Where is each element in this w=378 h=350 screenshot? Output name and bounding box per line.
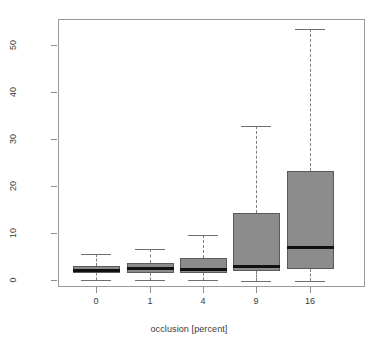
y-tick-label: 10	[8, 220, 18, 246]
y-tick-mark	[51, 139, 57, 140]
upper-whisker	[203, 235, 204, 258]
lower-whisker-cap	[241, 281, 270, 282]
upper-whisker	[256, 126, 257, 212]
x-tick-mark	[256, 287, 257, 293]
median-line	[127, 267, 174, 270]
lower-whisker	[150, 273, 151, 280]
x-tick-mark	[96, 287, 97, 293]
x-tick-mark	[150, 287, 151, 293]
x-tick-label: 0	[81, 296, 111, 306]
median-line	[73, 269, 120, 272]
y-tick-mark	[51, 186, 57, 187]
x-tick-mark	[310, 287, 311, 293]
lower-whisker-cap	[188, 280, 217, 281]
y-tick-label: 30	[8, 126, 18, 152]
box-body	[287, 171, 334, 269]
box-body	[233, 213, 280, 271]
upper-whisker-cap	[135, 249, 164, 250]
y-tick-label: 0	[8, 267, 18, 293]
lower-whisker	[203, 273, 204, 281]
upper-whisker-cap	[188, 235, 217, 236]
x-tick-label: 9	[241, 296, 271, 306]
lower-whisker-cap	[135, 280, 164, 281]
x-tick-mark	[203, 287, 204, 293]
upper-whisker	[96, 254, 97, 267]
upper-whisker-cap	[81, 254, 110, 255]
y-tick-mark	[51, 233, 57, 234]
lower-whisker	[256, 271, 257, 281]
x-tick-label: 4	[188, 296, 218, 306]
y-tick-label: 50	[8, 32, 18, 58]
y-tick-mark	[51, 280, 57, 281]
lower-whisker	[310, 269, 311, 281]
x-tick-label: 16	[295, 296, 325, 306]
upper-whisker	[150, 249, 151, 264]
upper-whisker	[310, 29, 311, 171]
median-line	[287, 246, 334, 249]
y-tick-label: 40	[8, 79, 18, 105]
lower-whisker	[96, 273, 97, 280]
median-line	[180, 268, 227, 271]
y-tick-mark	[51, 45, 57, 46]
box-body	[180, 258, 227, 273]
x-tick-label: 1	[135, 296, 165, 306]
boxplot-figure: reprojection error [pixels] 01020304050 …	[0, 0, 378, 350]
y-tick-label: 20	[8, 173, 18, 199]
upper-whisker-cap	[295, 29, 324, 30]
y-tick-mark	[51, 92, 57, 93]
lower-whisker-cap	[295, 281, 324, 282]
upper-whisker-cap	[241, 126, 270, 127]
lower-whisker-cap	[81, 280, 110, 281]
median-line	[233, 265, 280, 268]
x-axis-title: occlusion [percent]	[0, 324, 378, 334]
